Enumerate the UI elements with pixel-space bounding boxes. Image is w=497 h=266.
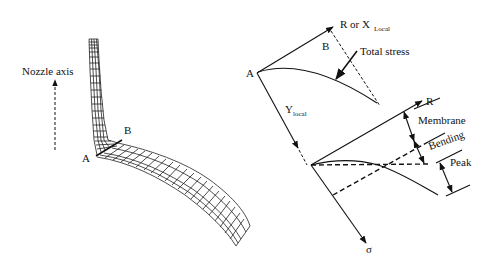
- peak-label: Peak: [450, 156, 472, 168]
- bending-line: [333, 142, 428, 195]
- linearized-stress-diagram: R σ Membrane Bending Peak: [311, 95, 472, 255]
- total-stress-pointer: [336, 51, 357, 79]
- local-coordinate-diagram: A R or X Local B Total stress Y local: [246, 18, 410, 165]
- mesh-point-a: A: [82, 152, 90, 164]
- sigma-axis-label: σ: [366, 243, 372, 255]
- membrane-dimension: [404, 112, 414, 141]
- b-dashed-line: [331, 31, 380, 106]
- mesh-point-b: B: [124, 124, 131, 136]
- stress-linearization-figure: Nozzle axis: [0, 0, 497, 266]
- membrane-line: [311, 164, 430, 165]
- y-local-axis-dots: [299, 150, 307, 165]
- sigma-axis: [311, 165, 366, 243]
- nozzle-axis-label: Nozzle axis: [22, 65, 74, 77]
- fe-mesh: A B: [82, 39, 250, 246]
- y-local-axis-subscript: local: [293, 110, 307, 118]
- x-local-axis-subscript: Local: [374, 25, 390, 33]
- total-stress-curve-lower: [311, 160, 438, 195]
- membrane-label: Membrane: [418, 114, 466, 126]
- y-local-axis-label: Y: [285, 103, 293, 115]
- total-stress-label: Total stress: [360, 45, 410, 57]
- point-b-label: B: [322, 40, 329, 52]
- nozzle-axis: Nozzle axis: [22, 65, 74, 150]
- x-local-axis-label: R or X: [340, 18, 370, 30]
- origin-a-label: A: [246, 67, 254, 79]
- bending-dimension: [414, 141, 424, 163]
- bending-label: Bending: [427, 128, 467, 152]
